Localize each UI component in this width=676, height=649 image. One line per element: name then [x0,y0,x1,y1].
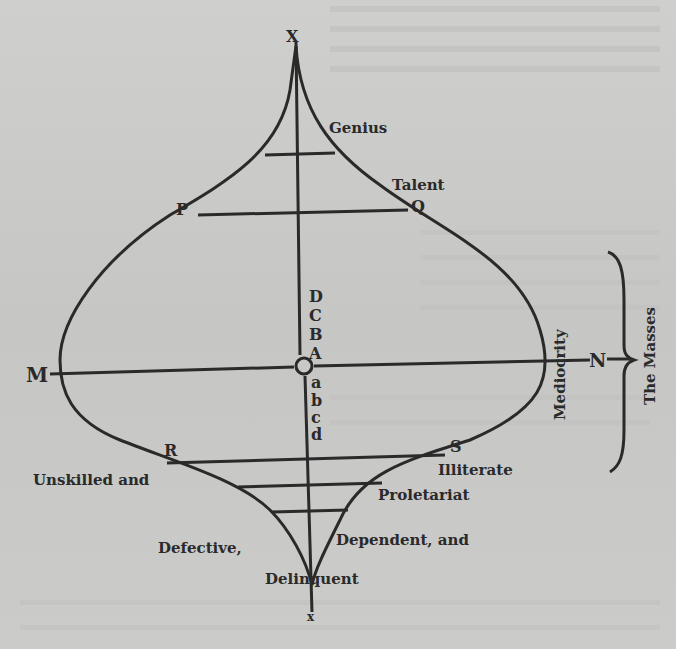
label-proletariat: Proletariat [378,486,469,504]
label-n: N [589,349,606,371]
label-x-top: X [286,27,299,46]
label-mediocrity: Mediocrity [551,328,569,420]
label-m: M [26,363,48,387]
distribution-diagram: X x M N D C B A a b c d P Q R S Genius T… [0,0,676,649]
horizontal-axis-left [50,367,294,374]
point-d-lower: d [311,425,322,444]
label-dependent: Dependent, and [336,531,469,549]
distribution-curve [60,46,545,585]
horizontal-axis-right [314,360,590,366]
vertical-axis [296,42,300,355]
point-a-lower: a [311,373,321,392]
label-illiterate: Illiterate [438,461,513,479]
label-p: P [176,200,188,219]
chord-genius [265,153,335,155]
chord-dependent [272,510,348,512]
label-s: S [450,437,462,456]
label-genius: Genius [329,119,387,137]
point-b-upper: B [309,325,323,344]
point-c-upper: C [309,306,322,325]
point-d-upper: D [309,287,323,306]
point-a-upper: A [308,344,322,363]
label-delinquent: Delinquent [265,570,359,588]
label-r: R [164,441,178,460]
label-talent: Talent [392,176,445,194]
chord-pq [198,210,408,215]
chord-proletariat [238,483,382,487]
label-q: Q [411,197,425,216]
label-unskilled: Unskilled and [33,471,150,489]
label-the-masses: The Masses [641,307,659,405]
label-defective: Defective, [158,539,242,557]
label-x-bottom: x [307,610,315,624]
